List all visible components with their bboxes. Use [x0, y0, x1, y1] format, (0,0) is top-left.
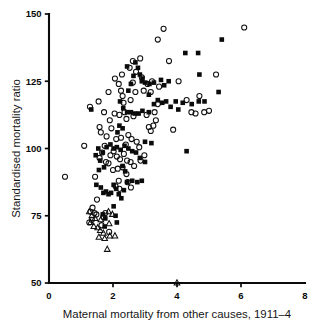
point-filled-square: [119, 196, 124, 201]
point-open-circle: [96, 99, 101, 104]
point-filled-square: [216, 90, 221, 95]
x-tick-label-0: 0: [46, 290, 51, 301]
point-filled-square: [156, 98, 161, 103]
point-open-circle: [137, 145, 142, 150]
point-open-triangle: [98, 217, 104, 222]
point-filled-square: [120, 164, 125, 169]
point-open-circle: [116, 178, 121, 183]
point-open-triangle: [112, 233, 118, 238]
point-open-circle: [97, 124, 102, 129]
point-filled-square: [118, 148, 123, 153]
scatter-plot-figure: 507510012515002468 Maternal mortality fr…: [0, 0, 322, 326]
point-open-circle: [128, 185, 133, 190]
point-open-circle: [132, 163, 137, 168]
axes-layer: 507510012515002468: [26, 8, 308, 300]
point-open-triangle: [106, 208, 112, 213]
point-filled-square: [135, 180, 140, 185]
point-filled-square: [108, 142, 113, 147]
point-filled-square: [116, 192, 121, 197]
point-filled-square: [125, 64, 130, 69]
series-open-circle: [62, 25, 246, 235]
x-tick-label-4: 4: [174, 290, 180, 301]
point-open-circle: [242, 25, 247, 30]
point-filled-square: [102, 165, 107, 170]
point-open-circle: [124, 116, 129, 121]
point-open-circle: [155, 37, 160, 42]
point-filled-square: [130, 178, 135, 183]
point-open-circle: [157, 84, 162, 89]
point-filled-square: [131, 74, 136, 79]
point-filled-square: [149, 141, 154, 146]
point-filled-square: [164, 99, 169, 104]
point-filled-square: [118, 99, 123, 104]
point-filled-square: [140, 79, 145, 84]
point-open-triangle: [106, 221, 112, 226]
point-open-circle: [106, 89, 111, 94]
point-filled-square: [168, 105, 173, 110]
point-filled-square: [121, 106, 126, 111]
y-axis-title: Standardised mortality ratio: [10, 79, 22, 218]
point-open-circle: [112, 111, 117, 116]
series-filled-square: [89, 37, 224, 229]
point-filled-square: [136, 66, 141, 71]
point-open-circle: [206, 108, 211, 113]
point-filled-square: [147, 110, 152, 115]
point-filled-square: [89, 107, 94, 112]
point-filled-square: [196, 51, 201, 56]
point-filled-square: [125, 180, 130, 185]
point-open-circle: [129, 137, 134, 142]
point-filled-square: [173, 99, 178, 104]
point-filled-square: [129, 82, 134, 87]
point-filled-square: [143, 160, 148, 165]
point-filled-square: [183, 51, 188, 56]
y-tick-label-50: 50: [31, 277, 42, 288]
y-tick-label-75: 75: [31, 210, 42, 221]
point-open-circle: [62, 174, 67, 179]
point-filled-square: [111, 183, 116, 188]
point-filled-square: [176, 107, 181, 112]
point-open-circle: [142, 153, 147, 158]
point-open-triangle: [104, 246, 110, 251]
point-open-circle: [152, 110, 157, 115]
point-filled-square: [114, 187, 119, 192]
point-open-circle: [114, 137, 119, 142]
point-filled-square: [103, 216, 108, 221]
point-filled-square: [220, 37, 225, 42]
point-open-circle: [171, 127, 176, 132]
point-open-circle: [138, 56, 143, 61]
point-filled-square: [126, 88, 131, 93]
point-filled-square: [140, 109, 145, 114]
point-open-circle: [128, 98, 133, 103]
point-filled-square: [97, 168, 102, 173]
point-open-circle: [166, 59, 171, 64]
point-filled-square: [134, 150, 139, 155]
point-open-circle: [119, 72, 124, 77]
point-open-circle: [197, 94, 202, 99]
point-open-circle: [110, 167, 115, 172]
point-open-circle: [161, 26, 166, 31]
point-filled-square: [100, 150, 105, 155]
point-filled-square: [166, 79, 171, 84]
point-filled-square: [147, 82, 152, 87]
point-filled-square: [94, 183, 99, 188]
y-tick-label-150: 150: [26, 8, 42, 19]
x-tick-label-2: 2: [110, 290, 115, 301]
axis-spine: [49, 14, 305, 283]
point-filled-square: [197, 72, 202, 77]
point-open-circle: [213, 72, 218, 77]
point-filled-square: [189, 102, 194, 107]
point-open-circle: [176, 79, 181, 84]
point-filled-square: [111, 204, 116, 209]
point-filled-square: [98, 158, 103, 163]
point-filled-square: [100, 212, 105, 217]
y-tick-label-100: 100: [26, 143, 42, 154]
point-filled-square: [93, 153, 98, 158]
point-filled-square: [122, 188, 127, 193]
point-open-circle: [107, 118, 112, 123]
point-open-circle: [133, 89, 138, 94]
point-filled-square: [162, 83, 167, 88]
point-open-circle: [141, 88, 146, 93]
point-filled-square: [133, 60, 138, 65]
point-filled-square: [143, 139, 148, 144]
point-filled-square: [180, 100, 185, 105]
